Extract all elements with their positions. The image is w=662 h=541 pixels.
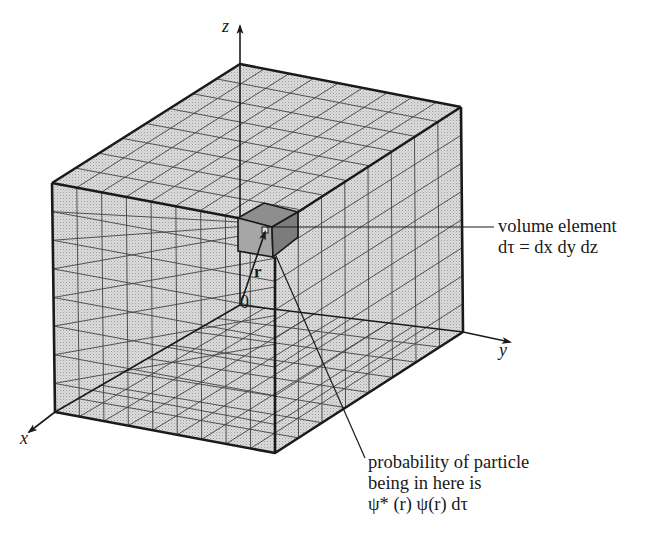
z-axis-label: z xyxy=(222,16,229,37)
volume-element-annotation: volume element dτ = dx dy dz xyxy=(498,216,617,258)
volume-element-title: volume element xyxy=(498,216,617,237)
probability-formula: ψ* (r) ψ(r) dτ xyxy=(368,494,529,515)
x-axis-label: x xyxy=(20,428,28,449)
x-axis xyxy=(29,412,55,432)
vector-r-label: r xyxy=(254,262,262,282)
volume-element-diagram xyxy=(0,0,662,541)
y-axis-label: y xyxy=(499,340,507,361)
volume-element-formula: dτ = dx dy dz xyxy=(498,237,617,258)
probability-line-1: probability of particle xyxy=(368,452,529,473)
probability-annotation: probability of particle being in here is… xyxy=(368,452,529,515)
probability-line-2: being in here is xyxy=(368,473,529,494)
origin-label: 0 xyxy=(240,292,249,313)
